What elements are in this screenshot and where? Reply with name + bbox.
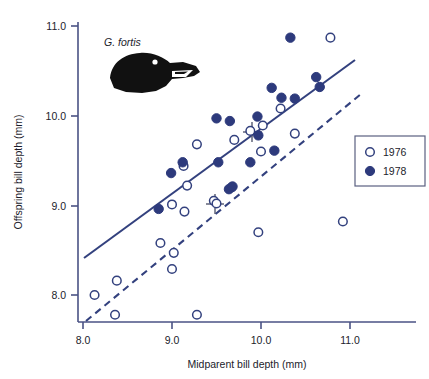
data-point xyxy=(315,82,324,91)
data-point xyxy=(339,217,348,226)
data-point xyxy=(168,265,177,274)
legend-marker-1978 xyxy=(365,166,374,175)
data-point xyxy=(166,168,175,177)
data-point xyxy=(113,276,122,285)
x-tick-label-8: 8.0 xyxy=(76,334,91,346)
y-tick-labels: 11.0 10.0 9.0 8.0 xyxy=(46,20,67,301)
data-point xyxy=(193,140,202,149)
fit-lines-group xyxy=(84,60,361,321)
legend-label-1976: 1976 xyxy=(383,146,407,158)
data-point xyxy=(212,199,221,208)
data-point xyxy=(212,114,221,123)
legend: 1976 1978 xyxy=(355,136,425,186)
y-tick-label-10: 10.0 xyxy=(46,110,67,122)
data-point xyxy=(111,310,120,319)
data-point xyxy=(193,310,202,319)
x-tick-label-11: 11.0 xyxy=(340,334,360,346)
data-point xyxy=(286,33,295,42)
legend-label-1978: 1978 xyxy=(383,165,407,177)
data-point xyxy=(168,200,177,209)
data-point xyxy=(258,121,267,130)
data-point xyxy=(183,181,192,190)
bird-illustration-icon xyxy=(110,53,200,93)
data-point xyxy=(270,146,279,155)
data-point xyxy=(230,136,239,145)
series-1978-points xyxy=(154,33,324,214)
data-point xyxy=(277,93,286,102)
x-tick-label-10: 10.0 xyxy=(251,334,272,346)
x-axis-title: Midparent bill depth (mm) xyxy=(187,358,306,370)
figure-container: 11.0 10.0 9.0 8.0 8.0 9.0 10.0 11.0 Midp… xyxy=(0,0,429,379)
y-tick-label-8: 8.0 xyxy=(51,289,66,301)
species-annotation: G. fortis xyxy=(104,36,142,48)
data-point xyxy=(225,116,234,125)
data-point xyxy=(246,158,255,167)
data-point xyxy=(228,182,237,191)
y-axis-title: Offspring bill depth (mm) xyxy=(12,115,24,230)
data-point xyxy=(169,249,178,258)
data-point xyxy=(254,228,263,237)
data-point xyxy=(180,207,189,216)
data-point xyxy=(257,147,266,156)
y-tick-label-9: 9.0 xyxy=(51,200,66,212)
data-point xyxy=(276,104,285,113)
y-tick-label-11: 11.0 xyxy=(46,20,66,32)
scatter-plot: 11.0 10.0 9.0 8.0 8.0 9.0 10.0 11.0 Midp… xyxy=(0,0,429,379)
data-point xyxy=(178,158,187,167)
legend-box xyxy=(355,136,425,186)
data-point xyxy=(254,131,263,140)
data-point xyxy=(311,72,320,81)
data-point xyxy=(246,127,255,136)
x-tick-labels: 8.0 9.0 10.0 11.0 xyxy=(76,334,360,346)
data-point xyxy=(156,239,165,248)
legend-marker-1976 xyxy=(366,148,375,157)
x-tick-label-9: 9.0 xyxy=(165,334,180,346)
regression-line-1976 xyxy=(86,94,361,321)
data-point xyxy=(291,129,300,138)
data-point xyxy=(214,158,223,167)
data-point xyxy=(267,83,276,92)
data-point xyxy=(326,33,335,42)
data-point xyxy=(90,291,99,300)
data-point xyxy=(290,94,299,103)
data-point xyxy=(253,112,262,121)
data-point xyxy=(154,204,163,213)
